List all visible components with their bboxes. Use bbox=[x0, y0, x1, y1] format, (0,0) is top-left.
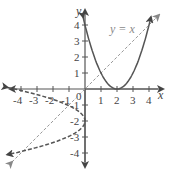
x-tick-label: -3 bbox=[29, 94, 39, 106]
y-tick-label: -2 bbox=[70, 115, 79, 127]
line-annotation: y = x bbox=[109, 22, 135, 36]
x-tick-label: -4 bbox=[13, 94, 23, 106]
x-axis-label: x bbox=[157, 88, 164, 102]
x-tick-label: 4 bbox=[146, 94, 152, 106]
graph: -4 -3 -2 -1 1 2 3 4 0 4 3 2 1 -1 -2 -3 -… bbox=[0, 0, 169, 173]
y-tick-label: -4 bbox=[70, 147, 80, 159]
y-tick-label: 3 bbox=[74, 35, 80, 47]
y-tick-label: 1 bbox=[74, 67, 80, 79]
y-axis-label: y bbox=[75, 4, 82, 18]
x-tick-label: -2 bbox=[45, 94, 54, 106]
x-tick-labels: -4 -3 -2 -1 1 2 3 4 0 bbox=[13, 90, 152, 106]
x-tick-label: 3 bbox=[130, 94, 136, 106]
y-tick-label: -1 bbox=[70, 99, 79, 111]
x-tick-label: 1 bbox=[98, 94, 104, 106]
x-tick-label: 2 bbox=[114, 94, 120, 106]
y-tick-label: 2 bbox=[74, 51, 80, 63]
y-tick-label: 4 bbox=[74, 19, 80, 31]
